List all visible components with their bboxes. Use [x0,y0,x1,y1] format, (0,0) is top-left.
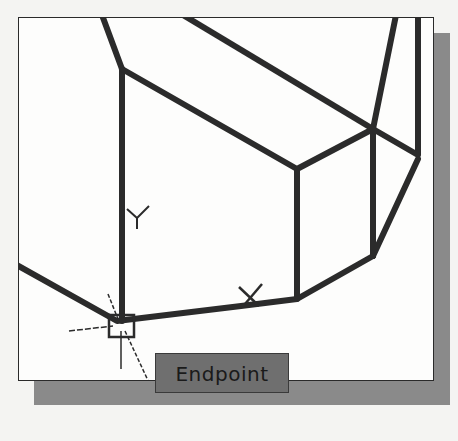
model-edge [373,159,418,256]
drawing-viewport[interactable] [18,17,434,381]
wireframe-model[interactable] [19,18,433,380]
model-edge [373,18,396,129]
snap-tooltip: Endpoint [155,353,289,393]
model-edge [183,18,373,129]
model-edge [122,69,373,169]
model-edge [102,18,122,69]
ucs-y-icon [127,206,149,229]
model-edge [19,256,373,321]
